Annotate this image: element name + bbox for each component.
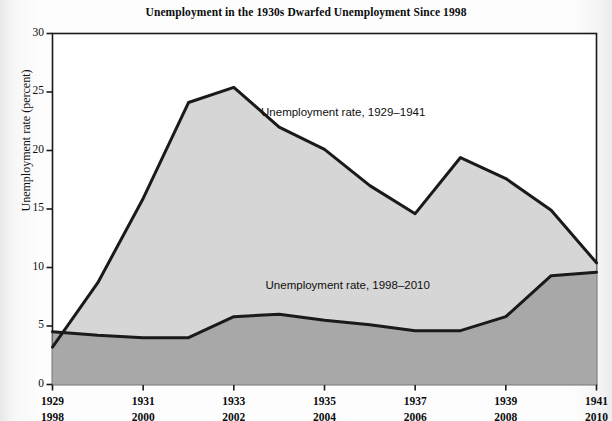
x-tick-label-group: 19291998 <box>18 393 88 421</box>
x-tick-label-primary: 1941 <box>562 393 612 409</box>
x-tick-label-group: 19412010 <box>562 393 612 421</box>
x-tick-label-group: 19372006 <box>380 393 450 421</box>
x-tick-label-secondary: 2000 <box>108 409 178 421</box>
x-tick-label-secondary: 1998 <box>18 409 88 421</box>
x-tick-label-group: 19352004 <box>290 393 360 421</box>
x-tick-label-primary: 1939 <box>471 393 541 409</box>
x-tick-label-secondary: 2008 <box>471 409 541 421</box>
x-axis-tick-labels: 1929199819312000193320021935200419372006… <box>0 0 612 421</box>
x-tick-label-secondary: 2004 <box>290 409 360 421</box>
chart-plot-area: Unemployment rate (percent) 30 25 20 15 … <box>0 0 612 421</box>
x-tick-label-group: 19392008 <box>471 393 541 421</box>
x-tick-label-primary: 1929 <box>18 393 88 409</box>
x-tick-label-primary: 1931 <box>108 393 178 409</box>
x-tick-label-primary: 1933 <box>199 393 269 409</box>
x-tick-label-secondary: 2002 <box>199 409 269 421</box>
x-tick-label-primary: 1937 <box>380 393 450 409</box>
x-tick-label-group: 19332002 <box>199 393 269 421</box>
x-tick-label-secondary: 2006 <box>380 409 450 421</box>
x-tick-label-secondary: 2010 <box>562 409 612 421</box>
x-tick-label-group: 19312000 <box>108 393 178 421</box>
x-tick-label-primary: 1935 <box>290 393 360 409</box>
